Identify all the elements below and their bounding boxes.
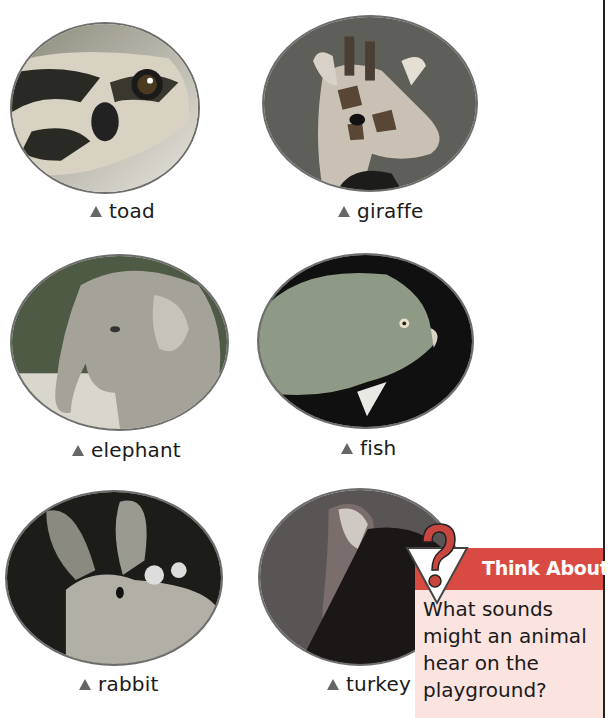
elephant-caption: elephant bbox=[72, 438, 181, 462]
think-title: Think About It bbox=[482, 557, 609, 579]
rabbit-photo bbox=[5, 490, 223, 666]
triangle-bullet-icon bbox=[72, 445, 84, 456]
rabbit-caption: rabbit bbox=[79, 672, 158, 696]
triangle-bullet-icon bbox=[90, 206, 102, 217]
fish-caption: fish bbox=[341, 436, 397, 460]
elephant-photo bbox=[10, 254, 229, 431]
triangle-bullet-icon bbox=[341, 443, 353, 454]
think-question: What sounds might an animal hear on the … bbox=[423, 596, 603, 704]
turkey-caption: turkey bbox=[327, 672, 411, 696]
giraffe-caption: giraffe bbox=[338, 199, 424, 223]
giraffe-photo bbox=[262, 15, 478, 192]
triangle-bullet-icon bbox=[327, 679, 339, 690]
triangle-bullet-icon bbox=[79, 679, 91, 690]
fish-photo bbox=[257, 253, 474, 429]
triangle-bullet-icon bbox=[338, 206, 350, 217]
toad-photo bbox=[10, 22, 200, 194]
question-mark-triangle-icon bbox=[405, 518, 475, 608]
think-about-it-box: Think About It What sounds might an anim… bbox=[415, 548, 605, 718]
toad-caption: toad bbox=[90, 199, 155, 223]
